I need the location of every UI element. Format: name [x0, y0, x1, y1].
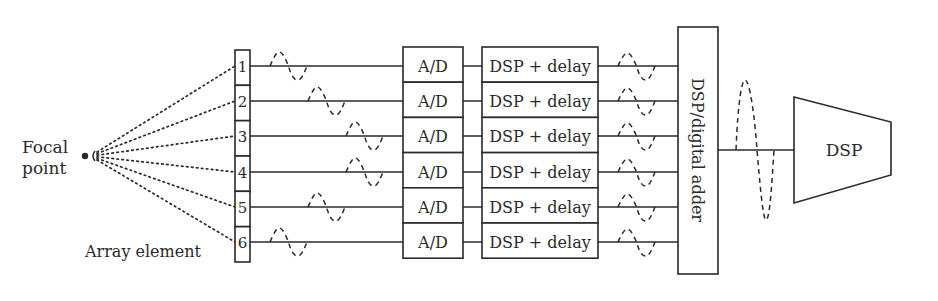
- emission-arc-icon: [93, 151, 95, 161]
- channel-1: A/DDSP + delay: [250, 47, 678, 82]
- array-element-label: Array element: [84, 242, 202, 261]
- dsp-delay-label: DSP + delay: [489, 198, 591, 217]
- array-element-number: 6: [238, 234, 248, 252]
- ad-label: A/D: [417, 198, 448, 217]
- focal-ray: [97, 158, 235, 207]
- ad-label: A/D: [417, 163, 448, 182]
- channels: A/DDSP + delayA/DDSP + delayA/DDSP + del…: [250, 47, 678, 258]
- digital-adder: DSP/digital adder: [678, 27, 718, 274]
- focal-label-line1: Focal: [22, 137, 68, 157]
- focal-ray: [97, 157, 235, 172]
- channel-5: A/DDSP + delay: [250, 188, 678, 223]
- array-element-number: 5: [238, 199, 248, 217]
- ad-label: A/D: [417, 127, 448, 146]
- ad-label: A/D: [417, 92, 448, 111]
- adder-label: DSP/digital adder: [688, 78, 707, 222]
- output-stage: DSP: [718, 80, 891, 220]
- dsp-delay-label: DSP + delay: [489, 127, 591, 146]
- channel-4: A/DDSP + delay: [250, 153, 678, 188]
- array-element-number: 3: [238, 128, 248, 146]
- channel-6: A/DDSP + delay: [250, 223, 678, 258]
- dsp-delay-label: DSP + delay: [489, 92, 591, 111]
- focal-point: Focal point: [22, 137, 95, 178]
- beamforming-diagram: Focal point 123456 Array element A/DDSP …: [0, 0, 938, 301]
- array-element-number: 4: [238, 164, 248, 182]
- ad-label: A/D: [417, 57, 448, 76]
- array-element-strip: 123456: [235, 50, 250, 262]
- focal-ray: [97, 160, 235, 242]
- focal-label-line2: point: [22, 158, 67, 178]
- focal-dot-icon: [82, 153, 88, 159]
- array-element-number: 2: [238, 93, 248, 111]
- channel-3: A/DDSP + delay: [250, 117, 678, 152]
- ad-label: A/D: [417, 233, 448, 252]
- focal-rays: [97, 66, 235, 242]
- array-element-number: 1: [238, 58, 248, 76]
- dsp-delay-label: DSP + delay: [489, 233, 591, 252]
- channel-2: A/DDSP + delay: [250, 82, 678, 117]
- dsp-delay-label: DSP + delay: [489, 57, 591, 76]
- dsp-delay-label: DSP + delay: [489, 163, 591, 182]
- dsp-label: DSP: [826, 140, 863, 160]
